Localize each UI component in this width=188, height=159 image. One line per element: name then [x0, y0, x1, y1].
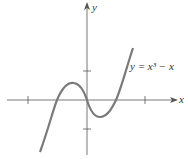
plot-svg: y = x³ − x x y [0, 0, 188, 159]
y-axis-label: y [91, 1, 97, 13]
x-axis-label: x [178, 93, 184, 105]
graph: y = x³ − x x y [0, 0, 188, 159]
equation-label: y = x³ − x [129, 60, 174, 72]
